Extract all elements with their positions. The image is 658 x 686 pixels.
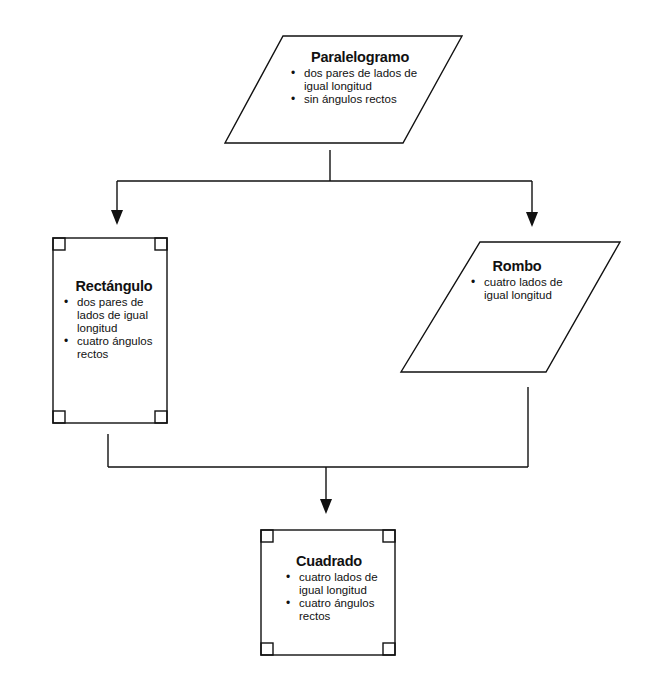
- node-paralelogramo: Paralelogramo dos pares de lados de igua…: [290, 51, 440, 106]
- arrow-down-icon: [111, 210, 123, 225]
- bullet-item: cuatro lados de igual longitud: [299, 571, 381, 597]
- bullet-list: cuatro lados de igual longitud: [470, 276, 570, 302]
- node-title: Cuadrado: [277, 555, 381, 568]
- bullet-item: cuatro ángulos rectos: [77, 335, 159, 361]
- node-rectangulo: Rectángulo dos pares de lados de igual l…: [63, 280, 159, 361]
- bullet-list: dos pares de lados de igual longitud sin…: [290, 67, 440, 106]
- bullet-list: cuatro lados de igual longitud cuatro án…: [285, 571, 381, 623]
- node-title: Rectángulo: [63, 280, 165, 293]
- arrow-down-icon: [320, 499, 332, 514]
- node-rombo: Rombo cuatro lados de igual longitud: [470, 260, 570, 302]
- bullet-item: dos pares de lados de igual longitud: [77, 296, 159, 335]
- connector-bottom: [108, 387, 528, 501]
- bullet-item: cuatro lados de igual longitud: [484, 276, 570, 302]
- node-title: Rombo: [464, 260, 570, 273]
- node-title: Paralelogramo: [280, 51, 440, 64]
- bullet-item: dos pares de lados de igual longitud: [304, 67, 440, 93]
- bullet-list: dos pares de lados de igual longitud cua…: [63, 296, 159, 361]
- bullet-item: sin ángulos rectos: [304, 93, 440, 106]
- arrow-down-icon: [526, 212, 538, 227]
- bullet-item: cuatro ángulos rectos: [299, 597, 381, 623]
- connector-top: [117, 150, 532, 214]
- node-cuadrado: Cuadrado cuatro lados de igual longitud …: [285, 555, 381, 623]
